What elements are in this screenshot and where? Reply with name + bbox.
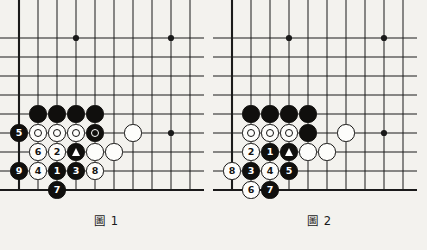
move-number: 2 [248,147,255,157]
stone-white-ring-marked [48,124,65,141]
stone-white-move-6: 6 [242,181,259,198]
stone-white [337,124,354,141]
move-number: 1 [54,166,61,176]
stone-black-ring-marked [86,124,103,141]
stone-white-move-6: 6 [29,143,46,160]
move-number: 8 [229,166,236,176]
stone-black [280,105,297,122]
circle-marker-icon [53,129,61,137]
figure-2-caption: 圖 2 [213,212,426,228]
stone-white [318,143,335,160]
stone-white [124,124,141,141]
figure-2: 21834567 圖 2 [213,0,426,250]
move-number: 8 [92,166,99,176]
circle-marker-icon [266,129,274,137]
circle-marker-icon [285,129,293,137]
stone-black [86,105,103,122]
stone-white [299,143,316,160]
stone-black-move-5: 5 [280,162,297,179]
stone-black-move-3: 3 [242,162,259,179]
triangle-marker-icon [72,148,80,156]
move-number: 9 [16,166,23,176]
figure-1-caption: 圖 1 [0,212,213,228]
figure-1: 562941387 圖 1 [0,0,213,250]
move-number: 7 [54,185,61,195]
move-number: 5 [286,166,293,176]
stone-black-move-7: 7 [48,181,65,198]
move-number: 4 [35,166,42,176]
circle-marker-icon [34,129,42,137]
stone-black-move-5: 5 [10,124,27,141]
stone-black [299,105,316,122]
move-number: 6 [35,147,42,157]
stone-black [29,105,46,122]
stone-black [299,124,316,141]
move-number: 2 [54,147,61,157]
stone-white-ring-marked [280,124,297,141]
stone-black-move-7: 7 [261,181,278,198]
move-number: 7 [267,185,274,195]
triangle-marker-icon [285,148,293,156]
stone-black [261,105,278,122]
stone-white-move-8: 8 [223,162,240,179]
stone-white-ring-marked [29,124,46,141]
stone-black [242,105,259,122]
move-number: 3 [248,166,255,176]
stone-white-move-4: 4 [261,162,278,179]
stone-white-ring-marked [261,124,278,141]
stone-black-move-3: 3 [67,162,84,179]
stone-layer-1: 562941387 [0,0,213,212]
stone-black-move-1: 1 [261,143,278,160]
stone-white-move-4: 4 [29,162,46,179]
stone-white-move-2: 2 [242,143,259,160]
move-number: 5 [16,128,23,138]
move-number: 6 [248,185,255,195]
go-board-2: 21834567 [213,0,426,212]
stone-layer-2: 21834567 [213,0,426,212]
move-number: 4 [267,166,274,176]
move-number: 1 [267,147,274,157]
move-number: 3 [73,166,80,176]
stone-black-triangle-marked [67,143,84,160]
stone-white [105,143,122,160]
circle-marker-icon [247,129,255,137]
circle-marker-icon [72,129,80,137]
stone-black [67,105,84,122]
stone-white [86,143,103,160]
diagram-page: 562941387 圖 1 21834567 圖 2 [0,0,427,250]
stone-white-ring-marked [67,124,84,141]
stone-black-move-9: 9 [10,162,27,179]
stone-white-move-8: 8 [86,162,103,179]
circle-marker-icon [91,129,99,137]
stone-white-ring-marked [242,124,259,141]
go-board-1: 562941387 [0,0,213,212]
stone-black-triangle-marked [280,143,297,160]
stone-white-move-2: 2 [48,143,65,160]
stone-black-move-1: 1 [48,162,65,179]
stone-black [48,105,65,122]
